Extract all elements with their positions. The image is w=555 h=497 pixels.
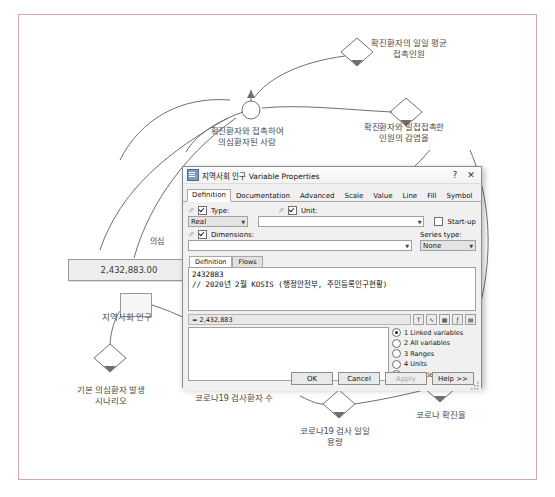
- type-select[interactable]: Real ▼: [188, 216, 248, 227]
- evaluated-value: = 2,432,883: [188, 314, 411, 325]
- chevron-down-icon-type: ▼: [241, 219, 246, 225]
- tab-documentation[interactable]: Documentation: [231, 190, 295, 202]
- pencil-icon-type: ✎: [188, 207, 194, 215]
- radio-linked-variables[interactable]: 1 Linked variables: [392, 328, 476, 337]
- evaluated-row: = 2,432,883 T ∿ ▦ ƒ ▤: [188, 314, 476, 325]
- label-close-contact-infection-rate: 확진환자와 밀접접촉한 인원의 감염율: [340, 122, 468, 143]
- tab-fill[interactable]: Fill: [422, 190, 441, 202]
- matrix-icon[interactable]: ▦: [439, 314, 450, 325]
- help-icon[interactable]: ?: [447, 168, 463, 182]
- radio-label-all: 2 All variables: [404, 339, 450, 347]
- startup-checkbox[interactable]: [434, 217, 443, 226]
- radio-dot-ranges: [392, 349, 401, 358]
- label-suspected-from-contact: 확진환자와 접촉하여 의심환자된 사람: [183, 126, 311, 147]
- apply-button: Apply: [385, 372, 427, 385]
- dimensions-label: Dimensions:: [211, 231, 254, 239]
- pencil-icon-unit: ✎: [278, 207, 284, 215]
- series-type-value: None: [423, 242, 441, 250]
- ok-button[interactable]: OK: [291, 372, 333, 385]
- radio-dot-units: [392, 360, 401, 369]
- dialog-buttonbar[interactable]: OK Cancel Apply Help >>: [183, 372, 481, 385]
- close-icon[interactable]: ✕: [463, 168, 479, 182]
- tab-value[interactable]: Value: [368, 190, 397, 202]
- tab-advanced[interactable]: Advanced: [295, 190, 340, 202]
- tab-scale[interactable]: Scale: [339, 190, 368, 202]
- arrowhead-down-1: [351, 60, 363, 66]
- radio-label-linked: 1 Linked variables: [404, 329, 463, 337]
- table-icon[interactable]: ▤: [465, 314, 476, 325]
- tab-symbol[interactable]: Symbol: [441, 190, 477, 202]
- tab-definition[interactable]: Definition: [187, 189, 231, 202]
- radio-dot-linked: [392, 328, 401, 337]
- label-covid-positive-rate: 코로나 확진율: [386, 410, 496, 421]
- subtab-flows[interactable]: Flows: [232, 256, 262, 267]
- dialog-title: 지역사회 인구 Variable Properties: [202, 170, 447, 181]
- tab-line[interactable]: Line: [398, 190, 423, 202]
- arrowhead-down-3: [104, 366, 116, 372]
- help-button[interactable]: Help >>: [432, 372, 474, 385]
- rate-circle: [242, 101, 260, 119]
- label-avg-daily-contacts: 확진환자의 일일 평균 접촉인원: [345, 38, 473, 59]
- cancel-button[interactable]: Cancel: [338, 372, 380, 385]
- text-tool-icon[interactable]: T: [413, 314, 424, 325]
- dimensions-select[interactable]: ▼: [188, 240, 412, 251]
- radio-ranges[interactable]: 3 Ranges: [392, 349, 476, 358]
- label-covid19-daily-test-capacity: 코로나19 검사 일일 용량: [280, 426, 390, 447]
- unit-checkbox[interactable]: [288, 206, 297, 215]
- label-base-suspected-scenario: 기본 의심환자 발생 시나리오: [47, 385, 175, 406]
- resize-grip-icon[interactable]: [470, 381, 480, 391]
- type-checkbox[interactable]: [198, 206, 207, 215]
- definition-tabbar[interactable]: Definition Flows: [188, 256, 476, 267]
- dialog-body: ✎ Type: ✎ Unit: Real ▼ ▼ Start-up: [183, 202, 481, 391]
- radio-all-variables[interactable]: 2 All variables: [392, 339, 476, 348]
- equation-editor[interactable]: 2432883 // 2020년 2월 KOSIS (행정안전부, 주민등록인구…: [188, 267, 476, 311]
- type-label: Type:: [211, 207, 229, 215]
- unit-select[interactable]: ▼: [258, 216, 424, 227]
- label-community-population: 지역사회 인구: [63, 312, 191, 323]
- radio-dot-all: [392, 339, 401, 348]
- stock-community-population[interactable]: 2,432,883.00: [68, 259, 190, 281]
- radio-label-ranges: 3 Ranges: [404, 350, 434, 358]
- label-covid19-tested-count: 코로나19 검사환자 수: [195, 393, 325, 404]
- chevron-down-icon-series: ▼: [469, 243, 474, 249]
- label-occluded-left: 의심: [150, 237, 170, 248]
- startup-label: Start-up: [447, 218, 476, 226]
- radio-label-units: 4 Units: [404, 360, 427, 368]
- dialog-titlebar[interactable]: 지역사회 인구 Variable Properties ? ✕: [183, 167, 481, 184]
- chevron-down-icon-unit: ▼: [418, 219, 423, 225]
- dimensions-checkbox[interactable]: [198, 230, 207, 239]
- type-value: Real: [191, 218, 206, 226]
- series-type-label: Series type:: [420, 231, 476, 239]
- variable-icon: [187, 169, 199, 181]
- chevron-down-icon-dimensions: ▼: [405, 243, 410, 249]
- variable-properties-dialog[interactable]: 지역사회 인구 Variable Properties ? ✕ Definiti…: [182, 166, 482, 388]
- radio-units[interactable]: 4 Units: [392, 360, 476, 369]
- unit-label: Unit:: [301, 207, 318, 215]
- dialog-tabbar[interactable]: Definition Documentation Advanced Scale …: [183, 184, 481, 202]
- curve-icon[interactable]: ∿: [426, 314, 437, 325]
- series-type-select[interactable]: None ▼: [420, 240, 476, 251]
- arrowhead-down-4: [333, 412, 345, 418]
- f-icon[interactable]: ƒ: [452, 314, 463, 325]
- pencil-icon-dimensions: ✎: [188, 231, 194, 239]
- arrowhead-down-5: [434, 396, 446, 402]
- arrowhead-up: [247, 90, 255, 98]
- subtab-definition[interactable]: Definition: [189, 256, 232, 267]
